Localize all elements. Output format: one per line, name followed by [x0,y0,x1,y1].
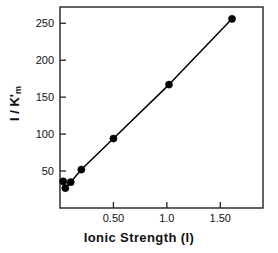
x-axis-title: Ionic Strength (I) [0,230,278,245]
data-point-marker [60,178,67,185]
y-axis-tick-labels: 50100150200250 [36,17,54,177]
x-tick-label: 1.50 [210,212,231,224]
y-tick-label: 200 [36,54,54,66]
chart-figure: 0.501.01.50 50100150200250 Ionic Strengt… [0,0,278,253]
data-point-marker [165,81,172,88]
y-tick-label: 150 [36,91,54,103]
x-tick-label: 1.0 [159,212,174,224]
x-axis-tick-labels: 0.501.01.50 [103,212,231,224]
y-axis-title-prime: ' [7,94,22,97]
data-point-marker [67,179,74,186]
data-point-marker [78,166,85,173]
y-axis-title-main: I / K [7,97,22,121]
x-tick-label: 0.50 [103,212,124,224]
data-point-marker [228,15,235,22]
x-axis-ticks [113,202,220,208]
data-point-marker [62,184,69,191]
scatter-plot-canvas: 0.501.01.50 50100150200250 [0,0,278,253]
data-series-line [63,19,232,188]
y-axis-title: I / K'm [7,64,22,144]
y-tick-label: 100 [36,128,54,140]
y-tick-label: 250 [36,17,54,29]
y-axis-ticks [60,23,66,171]
y-axis-title-subscript: m [13,86,23,94]
plot-frame [60,7,263,208]
data-point-marker [110,135,117,142]
y-tick-label: 50 [42,165,54,177]
